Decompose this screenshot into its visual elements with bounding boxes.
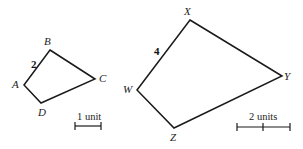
scale-label-1-unit: 1 unit — [77, 111, 101, 122]
vertex-label-b: B — [44, 35, 51, 47]
scale-bar-2-units: 2 units — [237, 111, 290, 131]
vertex-label-x: X — [183, 5, 192, 17]
side-length-ab: 2 — [31, 58, 37, 70]
quadrilateral-abcd: B C D A 2 — [11, 35, 107, 118]
vertex-label-y: Y — [284, 70, 292, 82]
scale-bar-1-unit: 1 unit — [75, 111, 101, 130]
vertex-label-a: A — [11, 78, 19, 90]
side-length-wx: 4 — [154, 45, 160, 57]
similar-quadrilaterals-diagram: B C D A 2 X Y Z W 4 1 unit 2 units — [0, 0, 303, 149]
vertex-label-w: W — [123, 83, 133, 95]
vertex-label-c: C — [99, 72, 107, 84]
scale-label-2-units: 2 units — [249, 111, 277, 122]
vertex-label-z: Z — [170, 131, 177, 143]
vertex-label-d: D — [37, 106, 46, 118]
quadrilateral-wxyz: X Y Z W 4 — [123, 5, 292, 143]
